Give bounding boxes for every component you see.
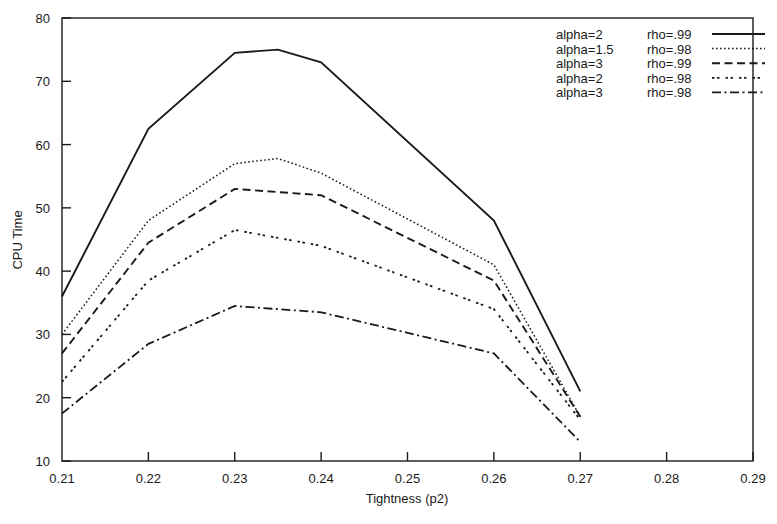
legend-alpha-label-2: alpha=3 (556, 56, 603, 71)
y-tick-label: 80 (36, 11, 50, 26)
y-tick-label: 20 (36, 391, 50, 406)
y-tick-label: 40 (36, 264, 50, 279)
series-line-2 (62, 189, 580, 417)
x-tick-label: 0.27 (568, 471, 593, 486)
x-tick-label: 0.23 (222, 471, 247, 486)
x-tick-label: 0.26 (481, 471, 506, 486)
chart-svg: 1020304050607080 0.210.220.230.240.250.2… (0, 0, 777, 524)
x-tick-label: 0.29 (740, 471, 765, 486)
legend-rho-label-1: rho=.98 (647, 42, 691, 57)
legend-alpha-label-3: alpha=2 (556, 71, 603, 86)
legend-alpha-label-4: alpha=3 (556, 85, 603, 100)
legend-alpha-label-0: alpha=2 (556, 27, 603, 42)
legend-rho-label-2: rho=.99 (647, 56, 691, 71)
x-tick-label: 0.25 (395, 471, 420, 486)
y-axis-title: CPU Time (10, 210, 25, 269)
series-line-0 (62, 50, 580, 392)
x-tick-label: 0.21 (49, 471, 74, 486)
x-tick-label: 0.28 (654, 471, 679, 486)
y-tick-label: 50 (36, 201, 50, 216)
series-line-4 (62, 306, 580, 442)
chart-legend: alpha=2rho=.99alpha=1.5rho=.98alpha=3rho… (556, 27, 765, 100)
series-line-1 (62, 159, 580, 417)
y-tick-label: 10 (36, 454, 50, 469)
legend-rho-label-3: rho=.98 (647, 71, 691, 86)
y-axis-ticks: 1020304050607080 (36, 11, 71, 469)
y-tick-label: 60 (36, 138, 50, 153)
series-line-3 (62, 230, 580, 420)
series-layer (62, 50, 580, 442)
legend-rho-label-4: rho=.98 (647, 85, 691, 100)
x-tick-label: 0.22 (136, 471, 161, 486)
cpu-time-line-chart: 1020304050607080 0.210.220.230.240.250.2… (0, 0, 777, 524)
legend-rho-label-0: rho=.99 (647, 27, 691, 42)
x-axis-title: Tightness (p2) (366, 491, 449, 506)
y-tick-label: 70 (36, 74, 50, 89)
x-tick-label: 0.24 (308, 471, 333, 486)
x-axis-ticks: 0.210.220.230.240.250.260.270.280.29 (49, 452, 765, 486)
legend-alpha-label-1: alpha=1.5 (556, 42, 613, 57)
y-tick-label: 30 (36, 327, 50, 342)
